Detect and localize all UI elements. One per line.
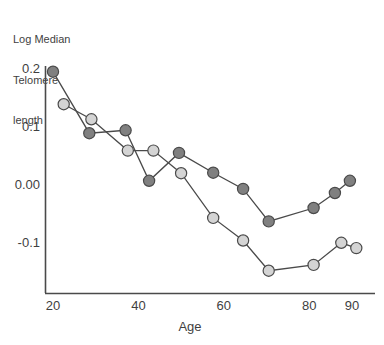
data-point-light-6[interactable] bbox=[238, 235, 249, 246]
data-point-light-7[interactable] bbox=[263, 265, 274, 276]
series-line-dark bbox=[53, 72, 350, 222]
data-point-light-10[interactable] bbox=[351, 243, 362, 254]
y-tick-label-3: -0.1 bbox=[0, 235, 40, 250]
x-tick-label-0: 20 bbox=[33, 298, 73, 313]
data-point-dark-3[interactable] bbox=[144, 175, 155, 186]
data-point-light-9[interactable] bbox=[336, 237, 347, 248]
y-tick-label-0: 0.2 bbox=[0, 61, 40, 76]
x-axis-title: Age bbox=[140, 319, 240, 334]
data-point-dark-5[interactable] bbox=[208, 167, 219, 178]
chart-canvas bbox=[0, 0, 384, 345]
x-tick-label-3: 80 bbox=[289, 298, 329, 313]
data-point-dark-10[interactable] bbox=[344, 175, 355, 186]
data-point-light-3[interactable] bbox=[148, 145, 159, 156]
data-point-dark-8[interactable] bbox=[308, 202, 319, 213]
data-point-dark-0[interactable] bbox=[47, 66, 58, 77]
series-lines bbox=[53, 72, 356, 271]
data-point-light-1[interactable] bbox=[86, 114, 97, 125]
y-tick-label-2: 0.00 bbox=[0, 177, 40, 192]
data-point-dark-9[interactable] bbox=[329, 187, 340, 198]
data-point-dark-2[interactable] bbox=[120, 125, 131, 136]
x-tick-label-1: 40 bbox=[118, 298, 158, 313]
data-point-dark-6[interactable] bbox=[238, 183, 249, 194]
x-tick-label-2: 60 bbox=[204, 298, 244, 313]
x-tick-label-4: 90 bbox=[332, 298, 372, 313]
chart-root: Log Median Telomere length 0.20.10.00-0.… bbox=[0, 0, 384, 345]
data-point-light-5[interactable] bbox=[208, 212, 219, 223]
data-point-light-4[interactable] bbox=[176, 168, 187, 179]
series-markers bbox=[47, 66, 362, 276]
data-point-light-0[interactable] bbox=[58, 99, 69, 110]
data-point-dark-7[interactable] bbox=[263, 216, 274, 227]
y-tick-label-1: 0.1 bbox=[0, 119, 40, 134]
data-point-light-2[interactable] bbox=[122, 145, 133, 156]
data-point-dark-1[interactable] bbox=[84, 128, 95, 139]
data-point-light-8[interactable] bbox=[308, 259, 319, 270]
data-point-dark-4[interactable] bbox=[173, 147, 184, 158]
axes bbox=[45, 66, 375, 294]
series-line-light bbox=[64, 104, 357, 271]
